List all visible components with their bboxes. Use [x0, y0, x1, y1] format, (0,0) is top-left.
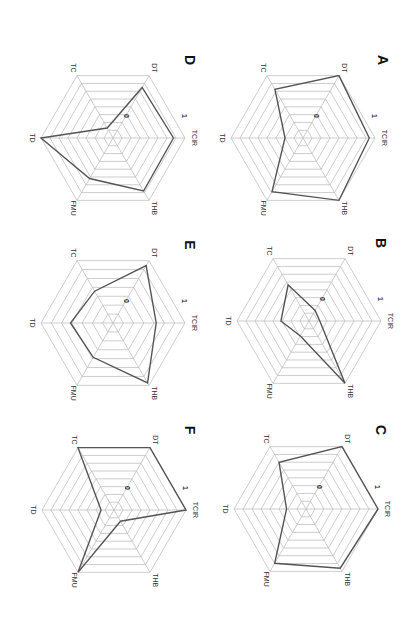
axis-label-thb: THB [152, 573, 159, 587]
tick-label-max: 1 [181, 114, 188, 118]
panel-letter: C [373, 425, 389, 435]
axis-label-tc: TC [260, 63, 267, 72]
axis-label-thb: THB [347, 384, 354, 398]
axis-label-thb: THB [151, 201, 158, 215]
axis-spoke-thb [113, 323, 149, 385]
tick-label-max: 1 [181, 299, 188, 303]
tick-label-min: 0 [313, 114, 320, 118]
panel-letter: E [182, 240, 198, 249]
axis-label-tc: TC [71, 435, 78, 444]
axis-label-fmu: FMU [260, 201, 267, 216]
axis-label-tc: TC [266, 246, 273, 255]
axis-label-fmu: FMU [263, 572, 270, 587]
axis-label-fmu: FMU [266, 384, 273, 399]
axis-label-dt: DT [344, 434, 351, 444]
axis-spoke-fmu [77, 323, 113, 385]
panel-letter: F [182, 426, 198, 435]
axis-label-dt: DT [341, 63, 348, 73]
axis-label-td: TD [222, 504, 229, 513]
axis-spoke-dt [113, 261, 149, 323]
radar-panel-c: TCIRTHBFMUTDTCDT01C [222, 425, 391, 587]
axis-label-dt: DT [151, 248, 158, 258]
axis-label-td: TD [219, 133, 226, 142]
axis-label-dt: DT [347, 246, 354, 256]
tick-label-max: 1 [377, 297, 384, 301]
tick-label-min: 0 [316, 485, 323, 489]
axis-label-tcir: TCIR [384, 501, 391, 517]
panel-letter: D [182, 55, 198, 65]
axis-label-tc: TC [70, 248, 77, 257]
axis-label-fmu: FMU [70, 386, 77, 401]
axis-label-tc: TC [70, 63, 77, 72]
axis-label-td: TD [30, 505, 37, 514]
data-series-polygon [281, 285, 345, 384]
data-series-polygon [275, 447, 378, 569]
axis-label-thb: THB [151, 386, 158, 400]
axis-label-thb: THB [344, 572, 351, 586]
radar-panel-a: TCIRTHBFMUTDTCDT01A [219, 55, 391, 216]
axis-label-fmu: FMU [71, 573, 78, 588]
axis-label-tcir: TCIR [192, 502, 199, 518]
axis-label-tcir: TCIR [381, 130, 388, 146]
radar-chart-figure: TCIRTHBFMUTDTCDT01ATCIRTHBFMUTDTCDT01BTC… [0, 0, 408, 618]
axis-label-tcir: TCIR [387, 313, 394, 329]
axis-label-tc: TC [263, 434, 270, 443]
tick-label-min: 0 [319, 297, 326, 301]
axis-label-td: TD [225, 316, 232, 325]
axis-label-dt: DT [151, 63, 158, 73]
radar-panel-e: TCIRTHBFMUTDTCDT01E [29, 240, 198, 400]
radar-panel-d: TCIRTHBFMUTDTCDT01D [29, 55, 198, 216]
axis-label-td: TD [29, 318, 36, 327]
tick-label-min: 0 [123, 299, 130, 303]
axis-label-tcir: TCIR [191, 315, 198, 331]
radar-panel-b: TCIRTHBFMUTDTCDT01B [225, 238, 394, 399]
axis-label-td: TD [29, 133, 36, 142]
axis-label-tcir: TCIR [191, 130, 198, 146]
tick-label-min: 0 [123, 114, 130, 118]
axis-label-fmu: FMU [70, 201, 77, 216]
radar-panel-f: TCIRTHBFMUTDTCDT01F [30, 426, 199, 588]
panel-letter: B [373, 238, 389, 248]
panel-letter: A [375, 55, 391, 65]
tick-label-max: 1 [182, 486, 189, 490]
axis-label-thb: THB [341, 201, 348, 215]
axis-label-dt: DT [152, 435, 159, 445]
tick-label-min: 0 [124, 486, 131, 490]
tick-label-max: 1 [374, 485, 381, 489]
tick-label-max: 1 [371, 114, 378, 118]
